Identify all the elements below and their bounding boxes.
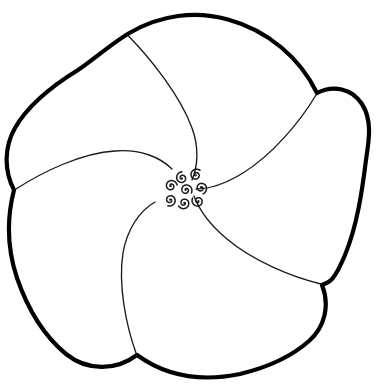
artboard [0, 0, 376, 385]
flower-line-drawing [0, 0, 376, 385]
